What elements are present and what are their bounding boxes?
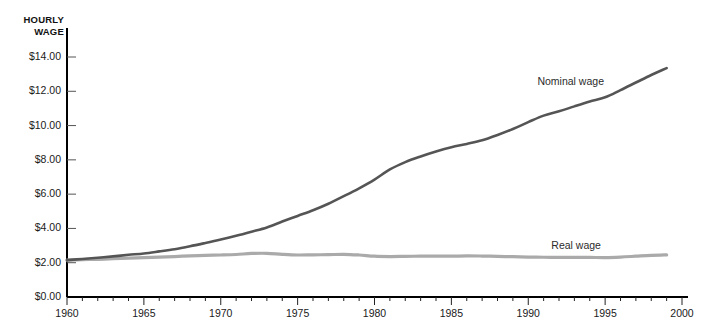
y-axis-tick-label: $4.00 [7, 222, 61, 233]
y-axis-tick-label: $12.00 [7, 85, 61, 96]
x-axis-tick-label: 1990 [501, 308, 555, 319]
x-axis-tick-label: 1970 [194, 308, 248, 319]
series-label-nominal-wage: Nominal wage [537, 75, 604, 87]
chart-plot-area [0, 0, 715, 336]
x-axis-tick-label: 1960 [40, 308, 94, 319]
x-axis-tick-label: 1980 [348, 308, 402, 319]
y-axis-tick-label: $2.00 [7, 257, 61, 268]
series-line-nominal-wage [67, 68, 667, 260]
series-label-real-wage: Real wage [551, 239, 601, 251]
x-axis-tick-label: 1995 [578, 308, 632, 319]
y-axis-tick-label: $6.00 [7, 188, 61, 199]
x-axis-tick-label: 1985 [424, 308, 478, 319]
y-axis-tick-label: $8.00 [7, 154, 61, 165]
data-series-group [67, 68, 667, 260]
x-axis-tick-label: 2000 [655, 308, 709, 319]
y-axis-tick-label: $0.00 [7, 291, 61, 302]
y-axis-tick-label: $10.00 [7, 120, 61, 131]
hourly-wage-chart: HOURLY WAGE $0.00$2.00$4.00$6.00$8.00$10… [0, 0, 715, 336]
series-line-real-wage [67, 253, 667, 260]
y-axis-tick-label: $14.00 [7, 51, 61, 62]
x-axis-tick-label: 1965 [117, 308, 171, 319]
x-axis-tick-label: 1975 [271, 308, 325, 319]
